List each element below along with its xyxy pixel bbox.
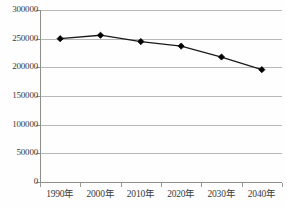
x-axis-tick-label: 2000年	[86, 189, 114, 200]
x-axis-tick-label: 1990年	[46, 189, 74, 200]
y-axis-tick-label: 150000	[12, 91, 38, 100]
y-axis-tick-label: 100000	[12, 120, 38, 129]
y-axis-tick-label: 300000	[12, 5, 38, 14]
x-axis-tick-label: 2030年	[207, 189, 235, 200]
data-point-marker	[218, 54, 224, 60]
x-axis-tick-label: 2020年	[167, 189, 195, 200]
x-axis-tick-label: 2040年	[248, 189, 276, 200]
gridline	[40, 96, 282, 97]
series-line	[60, 35, 262, 69]
data-point-marker	[97, 32, 103, 38]
y-axis-tick-label: 200000	[12, 62, 38, 71]
gridline	[40, 67, 282, 68]
plot-area: 050000100000150000200000250000300000 199…	[0, 0, 287, 208]
x-axis-tick-label: 2010年	[127, 189, 155, 200]
x-tick	[282, 183, 283, 187]
x-tick	[161, 183, 162, 187]
x-tick	[121, 183, 122, 187]
data-series	[0, 0, 287, 208]
gridline	[40, 125, 282, 126]
gridline	[40, 153, 282, 154]
y-axis-tick-label: 50000	[16, 148, 38, 157]
gridline	[40, 39, 282, 40]
y-axis-line	[40, 10, 41, 183]
x-tick	[242, 183, 243, 187]
y-axis-tick-label: 250000	[12, 34, 38, 43]
x-tick	[201, 183, 202, 187]
line-chart: 050000100000150000200000250000300000 199…	[0, 0, 287, 208]
gridline	[40, 10, 282, 11]
y-axis-tick-label: 0	[34, 177, 38, 186]
x-tick	[80, 183, 81, 187]
x-tick	[40, 183, 41, 187]
data-point-marker	[178, 43, 184, 49]
